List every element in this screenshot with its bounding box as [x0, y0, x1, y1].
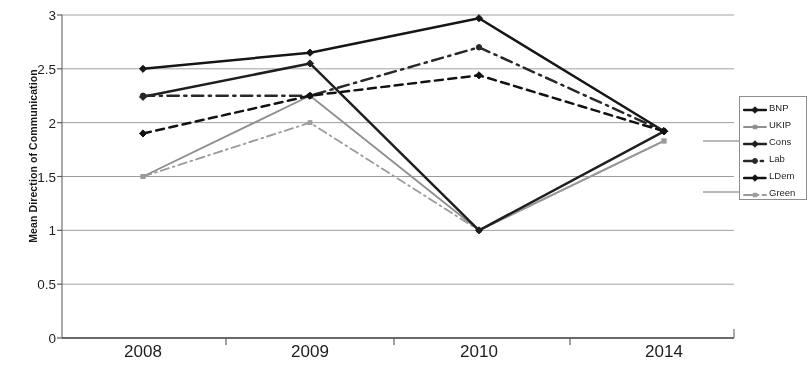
legend-label: LDem [769, 170, 794, 181]
data-point-marker [140, 93, 145, 98]
data-point-marker [753, 193, 757, 197]
series-lab [140, 45, 666, 134]
x-axis-tick-label: 2014 [645, 342, 683, 362]
data-point-marker [752, 174, 759, 181]
legend-item-green[interactable]: Green [743, 184, 807, 201]
legend-label: Lab [769, 153, 785, 164]
data-point-marker [476, 45, 481, 50]
data-point-marker [753, 158, 758, 163]
data-point-marker [662, 139, 666, 143]
data-point-marker [308, 121, 312, 125]
x-axis-tick-label: 2009 [291, 342, 329, 362]
data-point-marker [141, 175, 145, 179]
line-chart: Mean Direction of Communication 00.511.5… [0, 0, 810, 372]
series-line [143, 63, 664, 230]
series-bnp [139, 15, 667, 135]
legend-key-diamond-icon [743, 102, 767, 114]
legend-item-lab[interactable]: Lab [743, 150, 807, 167]
legend-item-bnp[interactable]: BNP [743, 99, 807, 116]
series-ukip [141, 94, 666, 232]
x-axis-tick-label: 2010 [460, 342, 498, 362]
data-point-marker [752, 140, 759, 147]
legend-label: UKIP [769, 119, 791, 130]
series-line [143, 18, 664, 131]
legend-label: Cons [769, 136, 791, 147]
legend-key-square-icon [743, 187, 767, 199]
x-axis-tick-label: 2008 [124, 342, 162, 362]
data-point-marker [475, 72, 482, 79]
legend-key-square-icon [743, 119, 767, 131]
series-line [143, 47, 664, 131]
data-point-marker [306, 49, 313, 56]
data-point-marker [752, 106, 759, 113]
legend-label: BNP [769, 102, 789, 113]
data-point-marker [753, 125, 757, 129]
legend-item-ldem[interactable]: LDem [743, 167, 807, 184]
legend-item-cons[interactable]: Cons [743, 133, 807, 150]
data-point-marker [139, 130, 146, 137]
legend-item-ukip[interactable]: UKIP [743, 116, 807, 133]
legend-key-diamond-icon [743, 136, 767, 148]
legend-key-circle-icon [743, 153, 767, 165]
data-point-marker [139, 65, 146, 72]
legend: BNPUKIPConsLabLDemGreen [739, 96, 807, 200]
plot-area [0, 0, 810, 372]
legend-key-diamond-icon [743, 170, 767, 182]
legend-label: Green [769, 187, 795, 198]
